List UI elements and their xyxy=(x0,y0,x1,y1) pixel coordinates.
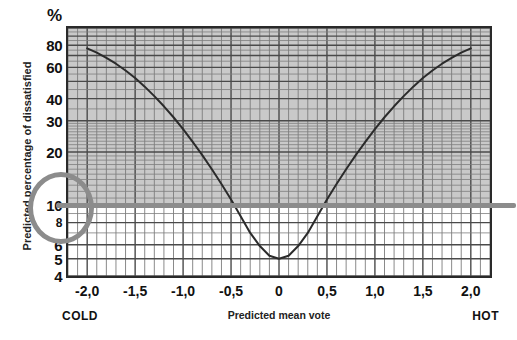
y-tick-label-5: 5 xyxy=(54,251,62,266)
y-tick-label-20: 20 xyxy=(46,145,62,160)
x-tick-label-0: -2,0 xyxy=(75,283,99,299)
x-axis-title: Predicted mean vote xyxy=(228,309,331,321)
x-tick-label-1: -1,5 xyxy=(123,283,147,299)
y-axis-title: Predicted percentage of dissatisfied xyxy=(21,51,33,261)
x-tick-label-3: -0,5 xyxy=(219,283,243,299)
y-tick-label-80: 80 xyxy=(46,38,62,53)
x-tick-label-5: 0,5 xyxy=(317,283,336,299)
y-tick-label-30: 30 xyxy=(46,113,62,128)
x-axis-cold-label: COLD xyxy=(62,309,98,323)
chart-figure: % 8060403020108654 Predicted percentage … xyxy=(0,0,517,340)
x-axis-hot-label: HOT xyxy=(472,309,499,323)
gridlines xyxy=(68,28,490,276)
threshold-highlight-circle-annotation xyxy=(28,172,94,244)
y-axis-unit-label: % xyxy=(47,6,62,26)
y-tick-label-4: 4 xyxy=(54,269,62,284)
y-tick-label-40: 40 xyxy=(46,91,62,106)
threshold-line-annotation xyxy=(56,203,516,208)
y-tick-label-60: 60 xyxy=(46,60,62,75)
x-tick-label-4: 0 xyxy=(275,283,283,299)
x-tick-label-8: 2,0 xyxy=(461,283,480,299)
x-tick-label-6: 1,0 xyxy=(365,283,384,299)
x-tick-label-2: -1,0 xyxy=(171,283,195,299)
plot-area xyxy=(66,26,492,278)
x-tick-label-7: 1,5 xyxy=(413,283,432,299)
